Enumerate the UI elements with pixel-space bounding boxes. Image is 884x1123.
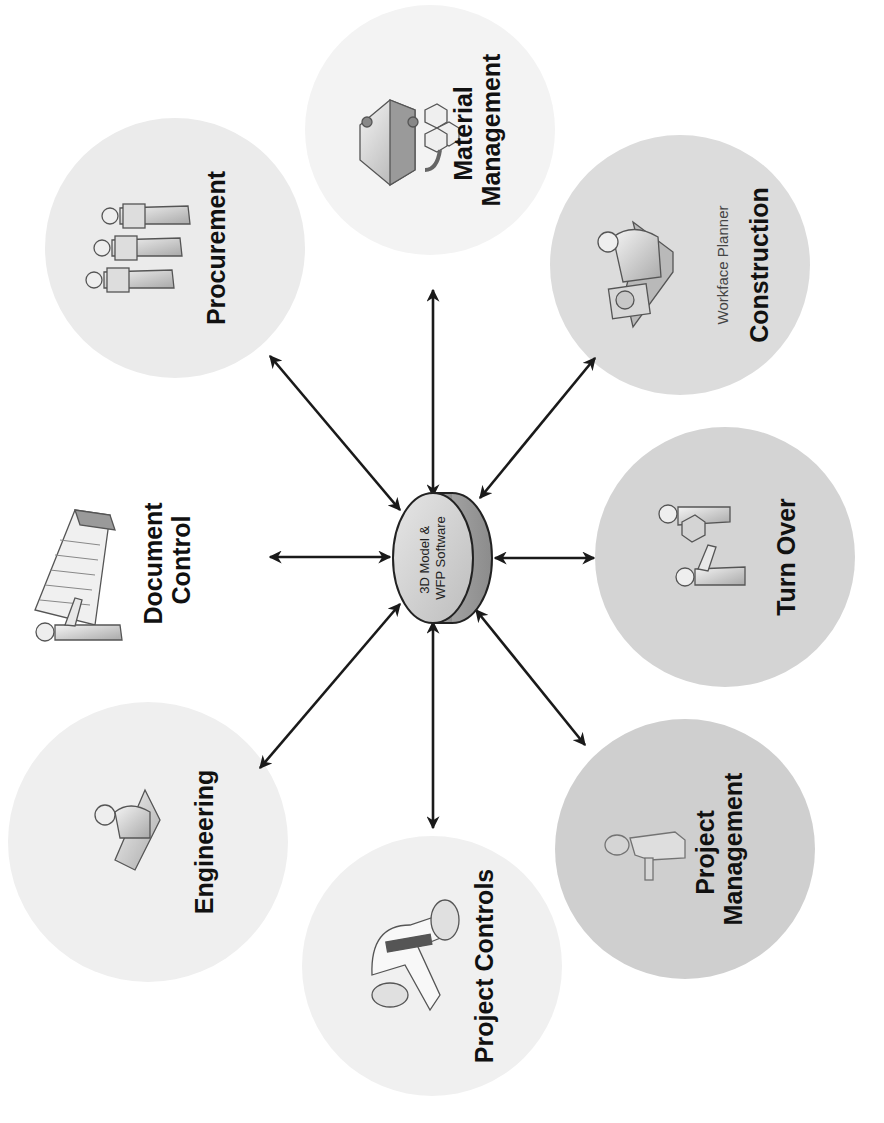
node-project-controls: Project Controls: [302, 836, 562, 1096]
workface-planner-sublabel: Workface Planner: [714, 206, 731, 325]
node-construction: Workface Planner Construction: [550, 135, 810, 395]
node-material-management: Material Management: [305, 5, 555, 255]
arrow-hub-procurement: [270, 356, 400, 510]
turn-over-label: Turn Over: [772, 498, 800, 616]
construction-label: Construction: [745, 187, 773, 343]
node-turn-over: Turn Over: [595, 427, 855, 687]
engineering-label: Engineering: [190, 770, 218, 914]
hub-3d-model-wfp-software: 3D Model & WFP Software: [393, 493, 492, 623]
arrow-hub-engineering: [260, 604, 400, 768]
arrow-hub-project-management: [476, 610, 585, 745]
arrow-hub-construction: [480, 358, 595, 498]
wfp-integration-diagram: Engineering Project Controls Project Man…: [0, 0, 884, 1123]
hub-label: 3D Model & WFP Software: [417, 516, 448, 600]
document-control-label: Document Control: [139, 495, 195, 624]
procurement-label: Procurement: [202, 170, 230, 325]
node-procurement: Procurement: [45, 118, 305, 378]
turn-over-circle: [595, 427, 855, 687]
person-with-file-cabinet-icon: [35, 510, 122, 641]
project-controls-label: Project Controls: [470, 869, 498, 1063]
material-management-circle: [305, 5, 555, 255]
project-controls-circle: [302, 836, 562, 1096]
node-document-control: Document Control: [35, 495, 195, 641]
node-engineering: Engineering: [8, 702, 288, 982]
node-project-management: Project Management: [555, 719, 815, 979]
